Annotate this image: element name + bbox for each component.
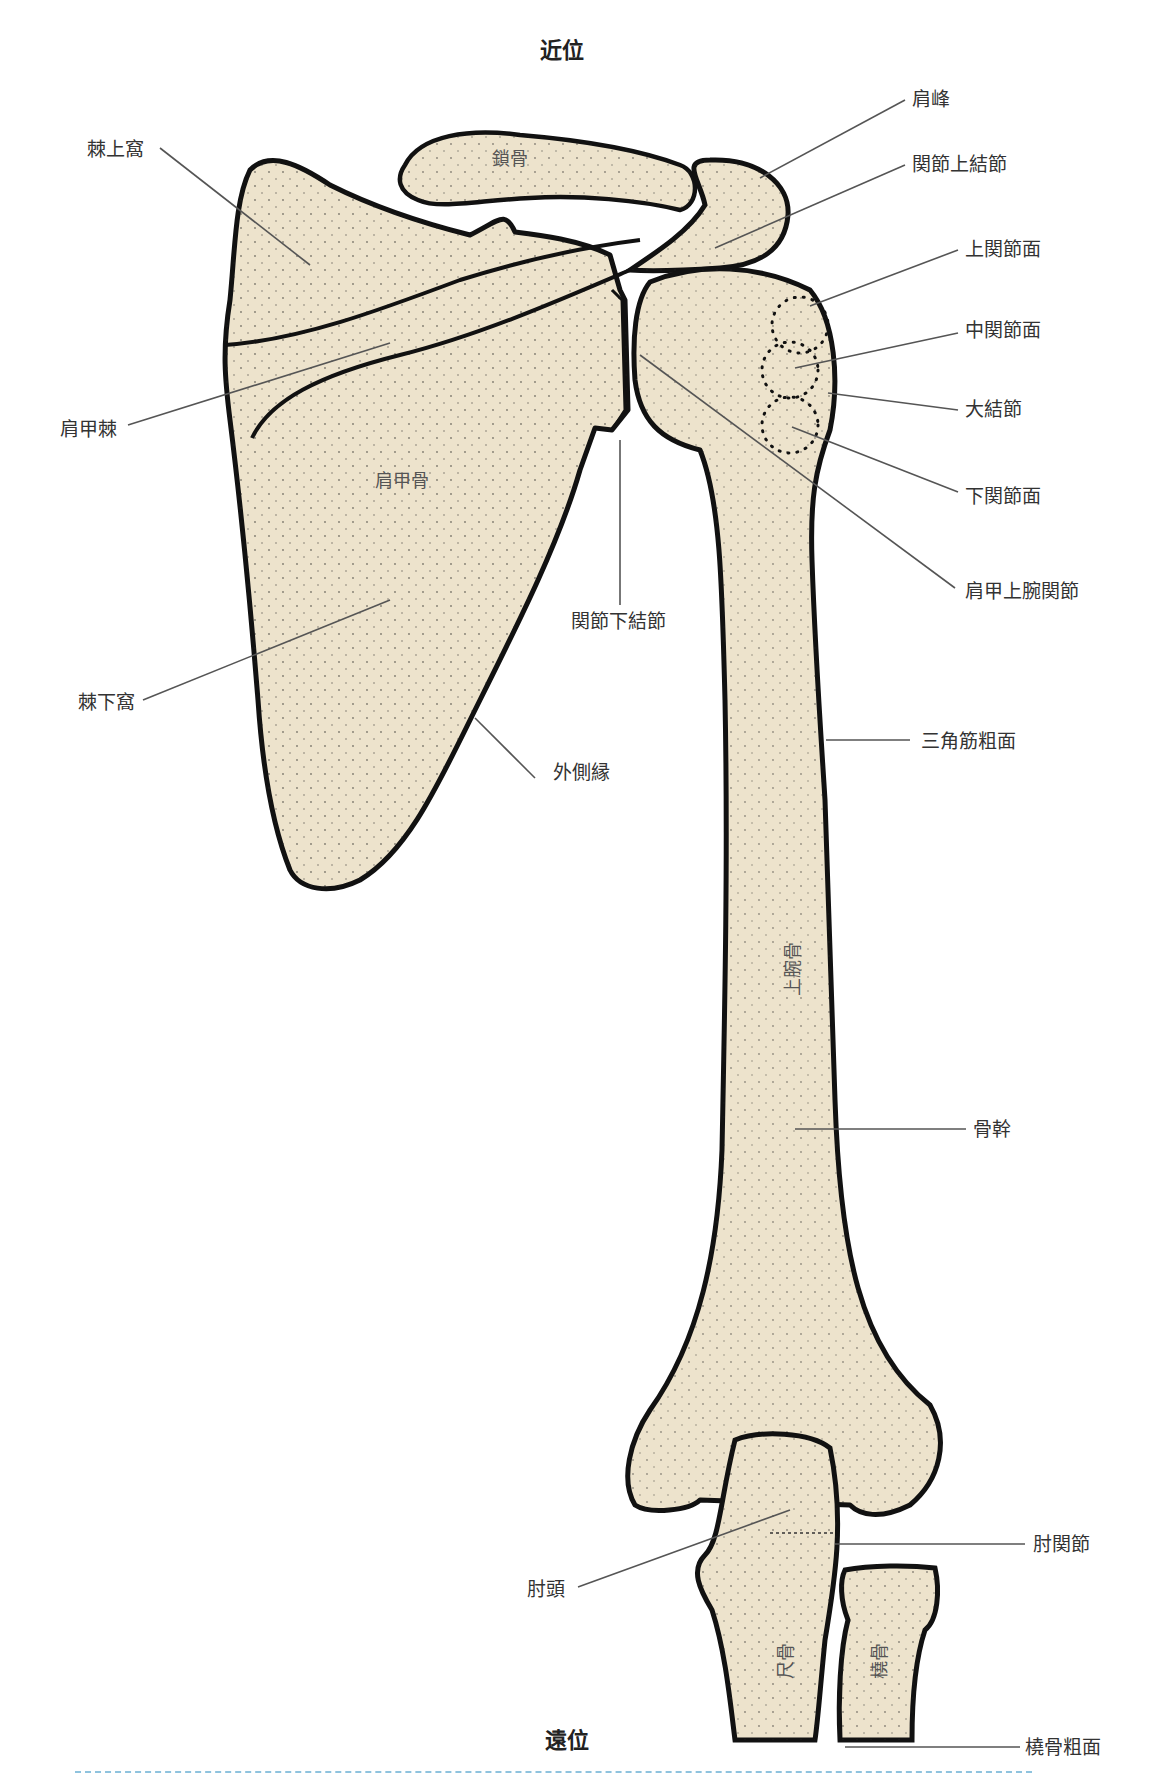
- label-lateral-border: 外側縁: [553, 763, 610, 782]
- label-olecranon: 肘頭: [527, 1580, 565, 1599]
- clavicle-name: 鎖骨: [492, 150, 528, 168]
- clavicle: [400, 133, 695, 210]
- humerus-name: 上腕骨: [784, 942, 802, 996]
- proximal-label: 近位: [540, 40, 584, 62]
- label-middle-facet: 中関節面: [965, 321, 1041, 340]
- label-inferior-facet: 下関節面: [965, 487, 1041, 506]
- label-acromion: 肩峰: [912, 90, 950, 109]
- label-shaft: 骨幹: [973, 1120, 1011, 1139]
- label-supraglenoid-tubercle: 関節上結節: [912, 155, 1007, 174]
- label-infraglenoid-tubercle: 関節下結節: [571, 612, 666, 631]
- label-radial-tuberosity: 橈骨粗面: [1025, 1738, 1101, 1757]
- label-elbow-joint: 肘関節: [1033, 1535, 1090, 1554]
- section-divider: [75, 1771, 1032, 1773]
- radius-name: 橈骨: [871, 1643, 889, 1679]
- anatomy-illustration: [0, 0, 1157, 1786]
- humerus: [628, 269, 941, 1515]
- label-deltoid-tuberosity: 三角筋粗面: [921, 732, 1016, 751]
- label-scapular-spine: 肩甲棘: [60, 420, 117, 439]
- label-greater-tubercle: 大結節: [965, 400, 1022, 419]
- label-supraspinous-fossa: 棘上窩: [87, 140, 144, 159]
- label-infraspinous-fossa: 棘下窩: [78, 693, 135, 712]
- label-superior-facet: 上関節面: [965, 240, 1041, 259]
- ulna-name: 尺骨: [777, 1643, 795, 1679]
- distal-label: 遠位: [545, 1730, 589, 1752]
- label-glenohumeral-joint: 肩甲上腕関節: [965, 582, 1079, 601]
- scapula-name: 肩甲骨: [375, 472, 429, 490]
